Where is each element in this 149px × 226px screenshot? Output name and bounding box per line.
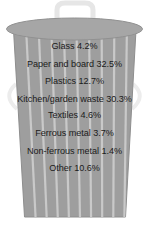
bin-illustration bbox=[0, 0, 149, 226]
waste-composition-figure: Glass 4.2% Paper and board 32.5% Plastic… bbox=[0, 0, 149, 226]
bin-left-handle-icon bbox=[9, 84, 17, 109]
